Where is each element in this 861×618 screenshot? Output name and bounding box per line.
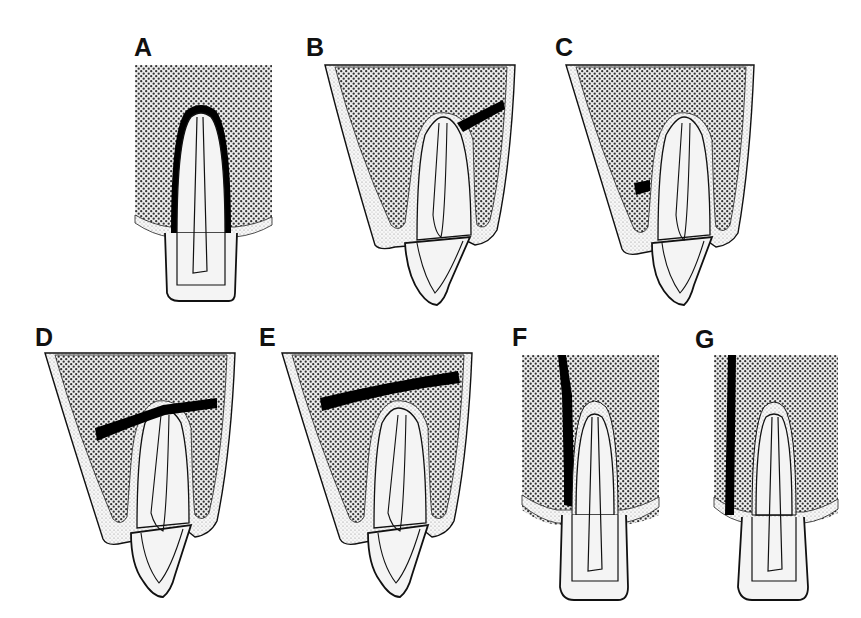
crown xyxy=(368,525,428,597)
tooth-diagram-e xyxy=(282,353,472,608)
panel-label-g: G xyxy=(695,327,714,352)
tooth-diagram-d xyxy=(45,353,235,608)
root xyxy=(658,117,710,240)
root xyxy=(756,414,792,515)
tooth-diagram-b xyxy=(325,65,515,315)
tooth-diagram-a xyxy=(135,65,275,305)
root xyxy=(374,408,426,528)
tooth-diagram-g xyxy=(714,355,844,605)
crown xyxy=(131,525,191,597)
panel-label-c: C xyxy=(555,35,573,60)
panel-label-a: A xyxy=(134,35,152,60)
tooth-diagram-f xyxy=(522,355,662,605)
crown xyxy=(652,237,712,305)
root xyxy=(137,408,189,528)
crown xyxy=(738,517,808,600)
panel-label-e: E xyxy=(259,325,276,350)
panel-label-b: B xyxy=(306,35,324,60)
panel-label-f: F xyxy=(512,325,527,350)
tooth-diagram-c xyxy=(566,65,756,315)
crown xyxy=(165,233,237,301)
panel-label-d: D xyxy=(35,325,53,350)
